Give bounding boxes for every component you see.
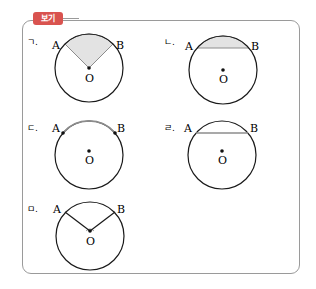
point-a-label: A: [184, 40, 194, 53]
point-b-label: B: [117, 122, 125, 135]
figure-segment: [189, 36, 257, 104]
point-a-label: A: [51, 39, 61, 52]
item-label: ㄹ.: [164, 123, 175, 133]
point-b-label: B: [117, 203, 125, 216]
figure-sector: [55, 34, 123, 102]
center-o-label: O: [85, 72, 94, 85]
point-a-label: A: [183, 122, 193, 135]
point-b-label: B: [251, 40, 259, 53]
point-a-label: A: [51, 122, 61, 135]
point-b-label: B: [116, 39, 124, 52]
center-o-label: O: [86, 235, 95, 248]
center-o-label: O: [219, 73, 228, 86]
item-label: ㄱ.: [27, 37, 38, 47]
item-label: ㅁ.: [27, 204, 38, 214]
item-label: ㄷ.: [27, 123, 38, 133]
center-o-label: O: [218, 154, 227, 167]
point-a-label: A: [52, 203, 62, 216]
center-o-label: O: [85, 154, 94, 167]
item-label: ㄴ.: [164, 37, 175, 47]
point-b-label: B: [250, 122, 258, 135]
